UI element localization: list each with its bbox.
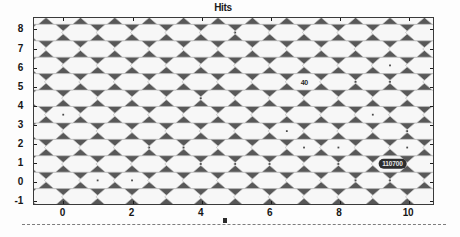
plot-area[interactable]: [33, 17, 434, 205]
hex-bin[interactable]: [423, 172, 433, 188]
hex-bin[interactable]: [388, 41, 426, 57]
hex-bin[interactable]: [165, 57, 203, 73]
hex-bin[interactable]: [34, 123, 65, 139]
hex-bin[interactable]: [216, 18, 254, 24]
hex-bin[interactable]: [216, 74, 254, 90]
hex-bin[interactable]: [96, 90, 134, 106]
hex-bin[interactable]: [371, 24, 409, 40]
hex-bin[interactable]: [251, 74, 289, 90]
hex-bin[interactable]: [113, 139, 151, 155]
hex-bin[interactable]: [285, 106, 323, 122]
hex-bin[interactable]: [337, 24, 375, 40]
hex-bin[interactable]: [319, 18, 357, 24]
hex-bin[interactable]: [34, 57, 65, 73]
hex-bin[interactable]: [371, 123, 409, 139]
hex-bin[interactable]: [96, 189, 134, 204]
hex-bin[interactable]: [182, 74, 220, 90]
hex-bin[interactable]: [182, 172, 220, 188]
hex-bin[interactable]: [319, 172, 357, 188]
hex-bin[interactable]: [371, 90, 409, 106]
hex-bin[interactable]: [405, 90, 433, 106]
hex-bin[interactable]: [96, 123, 134, 139]
hex-bin[interactable]: [319, 106, 357, 122]
hex-bin[interactable]: [251, 139, 289, 155]
hex-bin[interactable]: [130, 57, 168, 73]
hex-bin[interactable]: [79, 18, 117, 24]
hex-bin[interactable]: [423, 139, 433, 155]
hex-bin[interactable]: [62, 57, 100, 73]
hex-bin[interactable]: [113, 74, 151, 90]
hex-bin[interactable]: [216, 172, 254, 188]
hex-bin[interactable]: [79, 41, 117, 57]
hex-bin[interactable]: [199, 24, 237, 40]
hex-bin[interactable]: [62, 24, 100, 40]
hex-bin[interactable]: [34, 189, 65, 204]
hex-bin[interactable]: [165, 24, 203, 40]
hex-bin[interactable]: [34, 24, 65, 40]
hex-bin[interactable]: [199, 123, 237, 139]
hex-bin[interactable]: [302, 90, 340, 106]
hex-bin[interactable]: [302, 24, 340, 40]
hex-bin[interactable]: [354, 41, 392, 57]
hex-bin[interactable]: [148, 172, 186, 188]
hex-bin[interactable]: [268, 156, 306, 172]
hex-bin[interactable]: [234, 123, 272, 139]
hex-bin[interactable]: [130, 90, 168, 106]
hex-bin[interactable]: [44, 139, 82, 155]
hex-bin[interactable]: [268, 57, 306, 73]
hex-bin[interactable]: [182, 106, 220, 122]
hex-bin[interactable]: [337, 123, 375, 139]
hex-bin[interactable]: [354, 74, 392, 90]
hex-bin[interactable]: [251, 172, 289, 188]
hex-bin[interactable]: [182, 41, 220, 57]
hex-bin[interactable]: [34, 90, 65, 106]
hex-bin[interactable]: [96, 57, 134, 73]
hex-bin[interactable]: [337, 90, 375, 106]
hex-bin[interactable]: [199, 90, 237, 106]
hex-bin[interactable]: [62, 189, 100, 204]
hex-bin[interactable]: [165, 90, 203, 106]
hex-bin[interactable]: [354, 172, 392, 188]
hex-bin[interactable]: [79, 74, 117, 90]
hex-bin[interactable]: [268, 90, 306, 106]
hex-bin[interactable]: [388, 18, 426, 24]
hex-bin[interactable]: [302, 123, 340, 139]
hex-bin[interactable]: [216, 41, 254, 57]
hex-bin[interactable]: [113, 41, 151, 57]
hex-bin[interactable]: [285, 172, 323, 188]
hex-bin[interactable]: [354, 139, 392, 155]
hex-bin[interactable]: [234, 24, 272, 40]
hex-bin[interactable]: [199, 189, 237, 204]
hex-bin[interactable]: [388, 74, 426, 90]
hex-bin[interactable]: [96, 156, 134, 172]
hex-bin[interactable]: [285, 41, 323, 57]
hex-bin[interactable]: [423, 18, 433, 24]
hex-bin[interactable]: [268, 24, 306, 40]
hex-bin[interactable]: [199, 156, 237, 172]
hex-bin[interactable]: [234, 189, 272, 204]
hex-bin[interactable]: [302, 156, 340, 172]
hex-bin[interactable]: [62, 156, 100, 172]
hex-bin[interactable]: [62, 123, 100, 139]
hex-bin[interactable]: [79, 106, 117, 122]
hex-bin[interactable]: [268, 189, 306, 204]
hex-bin[interactable]: [405, 24, 433, 40]
hex-bin[interactable]: [234, 57, 272, 73]
hex-bin[interactable]: [423, 106, 433, 122]
hex-bin[interactable]: [44, 172, 82, 188]
hex-bin[interactable]: [234, 90, 272, 106]
hex-bin[interactable]: [388, 172, 426, 188]
hex-bin[interactable]: [165, 123, 203, 139]
hex-bin[interactable]: [405, 123, 433, 139]
hex-bin[interactable]: [34, 156, 65, 172]
hex-bin[interactable]: [337, 57, 375, 73]
hex-bin[interactable]: [182, 139, 220, 155]
hex-bin[interactable]: [251, 41, 289, 57]
hex-bin[interactable]: [405, 156, 433, 172]
hex-bin[interactable]: [148, 106, 186, 122]
hex-bin[interactable]: [251, 106, 289, 122]
hex-bin[interactable]: [79, 139, 117, 155]
hex-bin[interactable]: [62, 90, 100, 106]
hex-bin[interactable]: [130, 156, 168, 172]
hex-bin[interactable]: [148, 139, 186, 155]
